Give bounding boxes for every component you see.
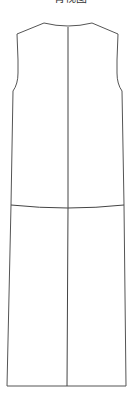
garment-back-view-drawing bbox=[0, 0, 140, 397]
garment-outline bbox=[7, 23, 126, 386]
center-back-seam bbox=[67, 27, 68, 386]
